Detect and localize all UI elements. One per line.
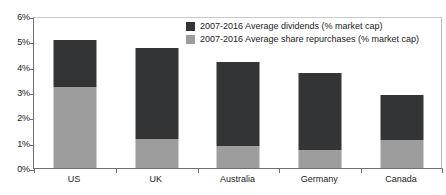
y-tick-mark: [30, 145, 34, 146]
x-axis: USUKAustraliaGermanyCanada: [33, 172, 442, 192]
legend-label-repurchases: 2007-2016 Average share repurchases (% m…: [200, 34, 419, 44]
legend-item-repurchases: 2007-2016 Average share repurchases (% m…: [186, 33, 419, 45]
legend-swatch-dividends-icon: [186, 22, 195, 31]
stacked-bar-chart: 0%1%2%3%4%5%6% USUKAustraliaGermanyCanad…: [0, 0, 446, 195]
bar-group: [34, 18, 116, 168]
bar-segment: [299, 73, 342, 150]
bar-segment: [381, 140, 424, 168]
y-tick-label: 3%: [0, 89, 30, 98]
y-tick-label: 2%: [0, 114, 30, 123]
bar-stack: [299, 73, 342, 168]
x-category-label: Canada: [385, 174, 417, 184]
bar-segment: [299, 150, 342, 168]
x-category-label: Germany: [301, 174, 338, 184]
y-tick-mark: [30, 119, 34, 120]
y-tick-mark: [30, 69, 34, 70]
y-tick-label: 1%: [0, 139, 30, 148]
x-tick-mark: [442, 168, 443, 173]
legend-item-dividends: 2007-2016 Average dividends (% market ca…: [186, 20, 419, 32]
bar-stack: [217, 62, 260, 168]
y-tick-label: 5%: [0, 38, 30, 47]
bar-segment: [135, 48, 178, 139]
y-tick-label: 0%: [0, 165, 30, 174]
y-tick-label: 4%: [0, 63, 30, 72]
bar-segment: [217, 146, 260, 168]
y-tick-label: 6%: [0, 13, 30, 22]
y-tick-mark: [30, 18, 34, 19]
bar-stack: [381, 95, 424, 168]
x-category-label: Australia: [220, 174, 255, 184]
x-category-label: UK: [149, 174, 162, 184]
bar-segment: [53, 40, 96, 87]
bar-segment: [381, 95, 424, 141]
y-tick-mark: [30, 94, 34, 95]
bar-stack: [53, 40, 96, 168]
legend: 2007-2016 Average dividends (% market ca…: [186, 20, 419, 46]
legend-label-dividends: 2007-2016 Average dividends (% market ca…: [200, 21, 382, 31]
bar-segment: [217, 62, 260, 147]
y-axis: 0%1%2%3%4%5%6%: [0, 0, 30, 195]
y-tick-mark: [30, 43, 34, 44]
bar-segment: [135, 139, 178, 168]
legend-swatch-repurchases-icon: [186, 35, 195, 44]
x-category-label: US: [68, 174, 81, 184]
bar-segment: [53, 87, 96, 168]
bar-stack: [135, 48, 178, 168]
